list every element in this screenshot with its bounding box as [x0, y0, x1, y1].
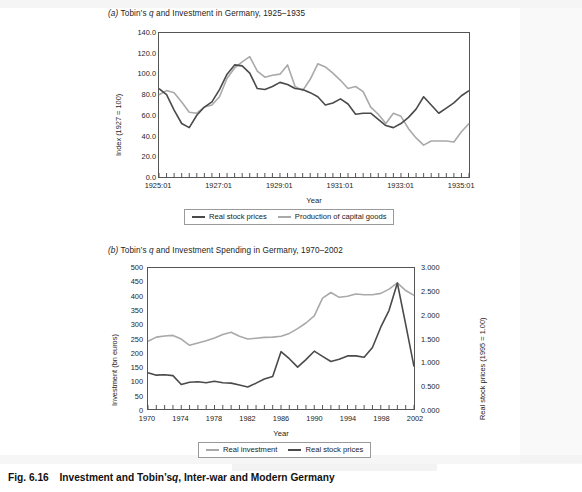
panel-b-xtick: 1994 — [340, 414, 356, 423]
panel-b-xtick: 1990 — [306, 414, 322, 423]
panel-b-xtick: 1978 — [206, 414, 222, 423]
panel-b-ytick-left: 400 — [116, 291, 143, 300]
panel-a-legend: Real stock prices Production of capital … — [184, 209, 394, 225]
panel-b-ytick-left: 300 — [116, 320, 143, 329]
panel-b-xtick: 1998 — [373, 414, 389, 423]
panel-a-ytick: 100.0 — [126, 69, 156, 78]
legend-item-production-of-capital-goods[interactable]: Production of capital goods — [278, 212, 387, 221]
panel-a-ytick: 60.0 — [126, 110, 156, 119]
panel-a-ytick: 120.0 — [126, 48, 156, 57]
panel-b-ytick-left: 150 — [116, 363, 143, 372]
panel-b-ytick-left: 250 — [116, 334, 143, 343]
legend-item-real-stock-prices[interactable]: Real stock prices — [192, 212, 267, 221]
panel-b-ytick-left: 500 — [116, 263, 143, 272]
panel-b-ytick-right: 2.000 — [421, 310, 455, 319]
legend-item-real-stock-prices[interactable]: Real stock prices — [288, 445, 363, 454]
panel-a-ytick: 20.0 — [126, 152, 156, 161]
panel-b-legend: Real investment Real stock prices — [198, 442, 371, 458]
panel-a-plot — [158, 32, 470, 178]
panel-a-ytick: 40.0 — [126, 131, 156, 140]
panel-b-ytick-right: 1.500 — [421, 334, 455, 343]
panel-a-xtick: 1925:01 — [145, 181, 172, 190]
panel-b-ytick-right: 0.500 — [421, 382, 455, 391]
panel-a-label: (a) — [108, 9, 118, 18]
panel-b-xtick: 1982 — [239, 414, 255, 423]
panel-b-plot — [147, 267, 415, 410]
panel-a-title-italic: q — [149, 9, 154, 18]
panel-b-ytick-right: 0.000 — [421, 406, 455, 415]
panel-b-label: (b) — [108, 246, 118, 255]
panel-b-ytick-left: 50 — [116, 391, 143, 400]
legend-label: Production of capital goods — [295, 212, 387, 221]
panel-b-xtick: 1970 — [139, 414, 155, 423]
panel-b-xtick: 2002 — [407, 414, 423, 423]
panel-b-ytick-right: 1.000 — [421, 358, 455, 367]
panel-b-y-axis-label-right: Real stock prices (1995 = 1.00) — [478, 318, 487, 421]
legend-label: Real stock prices — [209, 212, 267, 221]
panel-b-title-after: and Investment Spending in Germany, 1970… — [156, 246, 343, 255]
panel-b-xtick: 1974 — [172, 414, 188, 423]
legend-item-real-investment[interactable]: Real investment — [206, 445, 277, 454]
panel-a-y-axis-label: Index (1927 = 100) — [114, 94, 123, 156]
panel-a: (a) Tobin’s q and Investment in Germany,… — [0, 0, 582, 236]
panel-b-xtick: 1986 — [273, 414, 289, 423]
panel-b-ytick-left: 100 — [116, 377, 143, 386]
panel-a-title: (a) Tobin’s q and Investment in Germany,… — [108, 9, 305, 18]
panel-a-xtick: 1929:01 — [266, 181, 293, 190]
legend-swatch-dark — [192, 216, 205, 218]
caption-text-a: Investment and Tobin’s — [59, 472, 172, 483]
legend-label: Real stock prices — [305, 445, 363, 454]
caption-number: Fig. 6.16 — [8, 472, 49, 483]
panel-b-ytick-right: 3.000 — [421, 263, 455, 272]
panel-b-ytick-left: 350 — [116, 305, 143, 314]
panel-b: (b) Tobin’s q and Investment Spending in… — [0, 236, 582, 466]
panel-a-xtick: 1935:01 — [448, 181, 475, 190]
panel-a-xtick: 1927:01 — [205, 181, 232, 190]
panel-b-ytick-right: 2.500 — [421, 286, 455, 295]
legend-label: Real investment — [223, 445, 277, 454]
panel-b-title: (b) Tobin’s q and Investment Spending in… — [108, 246, 343, 255]
panel-a-ytick: 140.0 — [126, 28, 156, 37]
panel-a-ytick: 80.0 — [126, 90, 156, 99]
panel-a-xtick: 1933:01 — [387, 181, 414, 190]
caption-text-b: , Inter-war and Modern Germany — [178, 472, 334, 483]
legend-swatch-dark — [288, 449, 301, 451]
panel-b-ytick-left: 450 — [116, 277, 143, 286]
panel-a-title-after: and Investment in Germany, 1925–1935 — [156, 9, 305, 18]
figure-page: (a) Tobin’s q and Investment in Germany,… — [0, 0, 582, 492]
panel-a-x-axis-label: Year — [158, 196, 470, 205]
panel-a-title-before: Tobin’s — [121, 9, 147, 18]
legend-swatch-light — [278, 216, 291, 218]
panel-b-x-axis-label: Year — [147, 429, 415, 438]
legend-swatch-light — [206, 449, 219, 451]
panel-b-title-italic: q — [149, 246, 154, 255]
panel-b-ytick-left: 200 — [116, 348, 143, 357]
panel-a-xtick: 1931:01 — [327, 181, 354, 190]
panel-b-title-before: Tobin’s — [121, 246, 147, 255]
figure-caption: Fig. 6.16 Investment and Tobin’sq, Inter… — [8, 472, 335, 483]
